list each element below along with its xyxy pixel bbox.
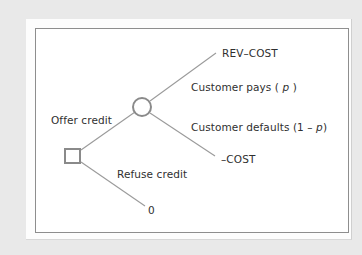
decision-node-square: [65, 149, 80, 163]
label-customer-pays-suffix: ): [289, 81, 297, 93]
label-customer-defaults: Customer defaults (1 – p): [191, 122, 327, 133]
label-customer-pays: Customer pays ( p ): [191, 82, 297, 93]
payoff-rev-cost: REV–COST: [222, 48, 278, 59]
customer-defaults-branch: [150, 113, 215, 156]
label-customer-pays-prefix: Customer pays (: [191, 81, 283, 93]
label-customer-defaults-var: p: [316, 121, 323, 133]
label-offer-credit: Offer credit: [51, 115, 112, 126]
label-refuse-credit: Refuse credit: [117, 169, 187, 180]
label-customer-defaults-suffix: ): [323, 121, 327, 133]
chance-node-circle: [133, 98, 151, 116]
payoff-minus-cost: –COST: [221, 154, 255, 165]
customer-pays-branch: [150, 53, 216, 101]
label-customer-defaults-prefix: Customer defaults (1 –: [191, 121, 316, 133]
payoff-zero: 0: [148, 205, 155, 216]
